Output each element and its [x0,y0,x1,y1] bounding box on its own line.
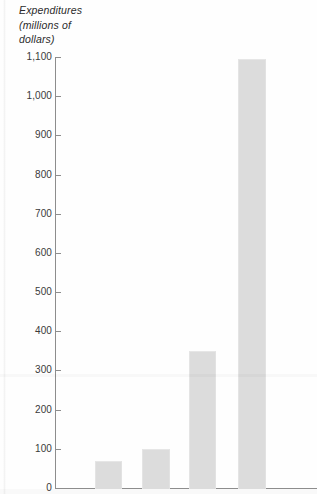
bar-2 [142,449,170,489]
bar-3 [189,351,216,489]
y-tick-label: 1,100 [6,51,52,62]
scan-artifact-horizontal-band [0,374,317,377]
y-tick-label: 1,000 [6,90,52,101]
plot-area: 1,1001,0009008007006005004003002001000 [0,0,317,494]
y-tick-label: 600 [6,247,52,258]
y-tick-mark [56,331,61,332]
y-tick-mark [56,57,61,58]
y-tick-mark [56,135,61,136]
scan-artifact-bottom-band [0,489,317,494]
y-tick-mark [56,449,61,450]
y-tick-mark [56,292,61,293]
y-tick-mark [56,214,61,215]
y-tick-label: 100 [6,443,52,454]
y-tick-label: 400 [6,325,52,336]
chart-screenshot: Expenditures (millions of dollars) 1,100… [0,0,317,494]
y-tick-label: 900 [6,129,52,140]
bar-1 [95,461,122,489]
y-tick-label: 800 [6,169,52,180]
y-tick-mark [56,410,61,411]
y-tick-mark [56,370,61,371]
y-tick-mark [56,175,61,176]
y-tick-mark [56,96,61,97]
y-tick-label: 200 [6,404,52,415]
y-tick-mark [56,253,61,254]
bar-4 [238,59,266,489]
y-axis-line [55,57,56,489]
y-tick-label: 700 [6,208,52,219]
y-tick-label: 500 [6,286,52,297]
